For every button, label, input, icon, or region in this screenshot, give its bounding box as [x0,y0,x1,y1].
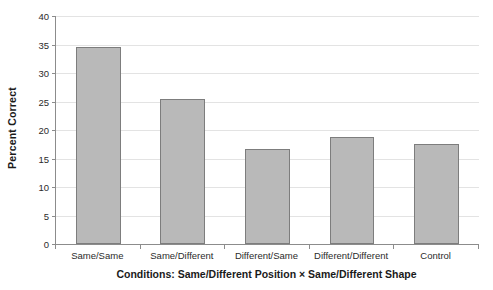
x-axis-tick-mark [309,244,310,249]
x-axis-category-label: Different/Different [309,250,394,266]
y-axis-tick-label: 5 [44,210,49,221]
bar [76,47,121,244]
y-axis-tick-label: 10 [38,182,49,193]
x-axis-tick-mark [478,244,479,249]
bar-slot [225,16,310,244]
bar-chart-figure: Percent Correct 0510152025303540 Same/Sa… [0,0,493,290]
x-axis-tick-mark [393,244,394,249]
y-axis-tick-label: 0 [44,239,49,250]
y-axis-tick-label: 25 [38,96,49,107]
y-axis-tick-label: 35 [38,39,49,50]
plot-area: 0510152025303540 [55,16,479,245]
bars-layer [56,16,479,244]
x-axis-category-label: Same/Same [55,250,140,266]
x-axis-title: Conditions: Same/Different Position × Sa… [55,268,478,280]
bar-slot [141,16,226,244]
bar [245,149,290,244]
bar-slot [310,16,395,244]
x-axis-tick-mark [55,244,56,249]
bar-slot [394,16,479,244]
y-axis-tick-label: 40 [38,11,49,22]
bar [330,137,375,244]
bar [160,99,205,244]
bar [414,144,459,244]
x-axis-category-label: Control [393,250,478,266]
x-axis-category-label: Same/Different [140,250,225,266]
x-axis-category-label: Different/Same [224,250,309,266]
y-axis-tick-label: 30 [38,68,49,79]
bar-slot [56,16,141,244]
y-axis-title-text: Percent Correct [6,87,18,169]
y-axis-tick-label: 15 [38,153,49,164]
x-axis-tick-mark [224,244,225,249]
x-axis-tick-marks [55,244,479,249]
y-axis-title: Percent Correct [0,0,24,255]
x-axis-tick-mark [140,244,141,249]
x-axis-tick-labels: Same/SameSame/DifferentDifferent/SameDif… [55,250,478,266]
y-axis-tick-label: 20 [38,125,49,136]
